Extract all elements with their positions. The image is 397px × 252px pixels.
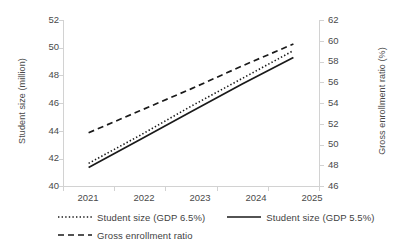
legend-row-2: Gross enrollment ratio [0,226,397,244]
chart-legend: Student size (GDP 6.5%) Student size (GD… [0,208,397,244]
legend-item-student-size-gdp-65[interactable]: Student size (GDP 6.5%) [58,208,205,226]
legend-item-gross-enrollment-ratio[interactable]: Gross enrollment ratio [58,226,193,244]
legend-label: Student size (GDP 5.5%) [266,212,374,223]
y-axis-left-tick-label: 42 [37,152,59,163]
y-axis-left-tick-label: 48 [37,69,59,80]
y-axis-right-tick [320,41,324,42]
y-axis-left-tick-label: 40 [37,180,59,191]
x-axis-tick [217,187,218,191]
x-axis-tick-label: 2022 [124,192,164,203]
y-axis-right-tick-label: 58 [328,55,350,66]
y-axis-right-tick-label: 48 [328,159,350,170]
x-axis-tick-label: 2025 [292,192,332,203]
dashed-line-icon [58,230,92,240]
x-axis-tick [114,187,115,191]
line-chart: Student size (million) Gross enrollment … [0,0,397,252]
x-axis-tick [268,187,269,191]
series-line-student-size-gdp-65 [89,51,294,164]
y-axis-right-tick-label: 54 [328,97,350,108]
y-axis-right-tick [320,62,324,63]
x-axis-tick-label: 2024 [236,192,276,203]
y-axis-left-title: Student size (million) [17,36,27,166]
y-axis-right-tick [320,82,324,83]
x-axis-tick [63,187,64,191]
y-axis-right-tick [320,124,324,125]
series-canvas [63,20,319,187]
y-axis-right-tick [320,165,324,166]
solid-line-icon [227,212,261,222]
y-axis-left-tick-label: 46 [37,97,59,108]
x-axis-tick-label: 2023 [180,192,220,203]
x-axis-tick [165,187,166,191]
y-axis-right-tick-label: 46 [328,180,350,191]
legend-label: Gross enrollment ratio [97,230,193,241]
legend-row-1: Student size (GDP 6.5%) Student size (GD… [0,208,397,226]
y-axis-left-tick-label: 44 [37,125,59,136]
y-axis-right-tick [320,103,324,104]
y-axis-right-tick-label: 56 [328,76,350,87]
y-axis-right-title: Gross enrollment ratio (%) [377,31,387,171]
y-axis-right-tick [320,145,324,146]
dotted-line-icon [58,212,92,222]
x-axis-tick-label: 2021 [68,192,108,203]
x-axis-tick [319,187,320,191]
series-line-gross-enrollment-ratio [89,44,294,133]
legend-item-student-size-gdp-55[interactable]: Student size (GDP 5.5%) [227,208,374,226]
y-axis-left-tick-label: 50 [37,41,59,52]
y-axis-right-tick [320,20,324,21]
series-line-student-size-gdp-55 [89,58,294,168]
y-axis-right-tick-label: 62 [328,14,350,25]
y-axis-right-tick-label: 60 [328,35,350,46]
legend-label: Student size (GDP 6.5%) [97,212,205,223]
y-axis-right-tick [320,186,324,187]
y-axis-right-tick-label: 50 [328,138,350,149]
y-axis-left-tick-label: 52 [37,14,59,25]
y-axis-right-tick-label: 52 [328,118,350,129]
plot-area [63,20,319,186]
